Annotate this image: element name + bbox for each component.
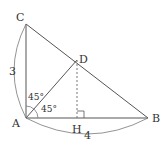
geometry-diagram: C A B D H 3 4 45° 45° <box>0 0 167 146</box>
angle-label-cad: 45° <box>28 92 44 102</box>
label-b: B <box>152 112 160 125</box>
label-d: D <box>79 53 88 66</box>
length-label-ab: 4 <box>84 129 91 142</box>
label-h: H <box>72 123 82 136</box>
label-a: A <box>11 117 21 130</box>
angle-label-dab: 45° <box>41 104 57 114</box>
length-label-ac: 3 <box>9 65 16 78</box>
label-c: C <box>16 11 24 24</box>
right-angle-mark <box>77 111 84 118</box>
